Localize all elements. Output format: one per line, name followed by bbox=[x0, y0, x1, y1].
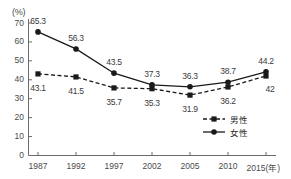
data-label-male-1992: 41.5 bbox=[68, 86, 84, 96]
legend-marks bbox=[203, 116, 225, 134]
data-point-marker bbox=[187, 93, 192, 98]
legend-marker bbox=[211, 116, 216, 121]
data-label-male-1987: 43.1 bbox=[30, 83, 46, 93]
data-point-marker bbox=[225, 84, 230, 89]
data-point-marker bbox=[111, 85, 116, 90]
y-axis-tick-label: 60 bbox=[8, 36, 24, 46]
data-label-female-2015: 44.2 bbox=[258, 56, 274, 66]
data-label-male-2002: 35.3 bbox=[144, 98, 160, 108]
data-point-marker bbox=[225, 79, 231, 85]
line-chart: (%) 010203040506070 19871992199720022005… bbox=[0, 0, 291, 179]
data-point-marker bbox=[111, 70, 117, 76]
x-axis-tick-label: 2002 bbox=[143, 161, 162, 171]
data-point-marker bbox=[35, 71, 40, 76]
data-point-marker bbox=[35, 29, 41, 35]
x-axis-tick-label: 2005 bbox=[181, 161, 200, 171]
data-label-female-2002: 37.3 bbox=[144, 69, 160, 79]
x-axis-tick-label: 1997 bbox=[105, 161, 124, 171]
data-label-female-1992: 56.3 bbox=[68, 33, 84, 43]
data-point-marker bbox=[149, 82, 155, 88]
x-axis-tick-label: 2010 bbox=[219, 161, 238, 171]
data-point-marker bbox=[187, 84, 193, 90]
data-label-female-1987: 65.3 bbox=[30, 16, 46, 26]
y-axis-tick-label: 20 bbox=[8, 112, 24, 122]
y-axis-tick-label: 70 bbox=[8, 18, 24, 28]
data-label-male-2010: 36.2 bbox=[220, 96, 236, 106]
y-axis-tick-label: 50 bbox=[8, 55, 24, 65]
data-point-marker bbox=[73, 74, 78, 79]
x-axis-tick-label: 2015(年) bbox=[247, 161, 281, 173]
data-point-marker bbox=[73, 46, 79, 52]
data-label-female-1997: 43.5 bbox=[106, 57, 122, 67]
data-point-marker bbox=[263, 69, 269, 75]
data-label-female-2010: 38.7 bbox=[220, 66, 236, 76]
data-label-female-2005: 36.3 bbox=[182, 71, 198, 81]
data-label-male-1997: 35.7 bbox=[106, 97, 122, 107]
y-axis-tick-label: 30 bbox=[8, 93, 24, 103]
x-axis-tick-label: 1992 bbox=[67, 161, 86, 171]
legend-label-female: 女性 bbox=[230, 126, 248, 138]
x-axis-tick-label: 1987 bbox=[29, 161, 48, 171]
y-axis-tick-label: 40 bbox=[8, 74, 24, 84]
legend-label-male: 男性 bbox=[230, 113, 248, 125]
data-label-male-2015: 42 bbox=[265, 84, 274, 94]
y-axis-tick-label: 10 bbox=[8, 131, 24, 141]
data-label-male-2005: 31.9 bbox=[182, 104, 198, 114]
legend-marker bbox=[211, 129, 217, 135]
y-axis-tick-label: 0 bbox=[8, 150, 24, 160]
